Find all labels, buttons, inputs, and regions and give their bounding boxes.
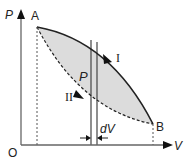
point-B-label: B [156,120,164,134]
curve-I-arrow-icon [103,54,112,64]
pv-diagram: P V O A B I II P dV [0,0,191,161]
x-axis-arrow-icon [163,141,173,149]
curve-II-arrow-icon [73,90,84,99]
strip-pressure-label: P [79,69,88,84]
curve-I-label: I [116,51,120,65]
y-axis-label: P [5,8,13,22]
x-axis-label: V [174,139,183,153]
curve-II-label: II [65,90,73,104]
origin-label: O [8,146,17,160]
y-axis-arrow-icon [17,9,25,19]
enclosed-area [37,27,153,124]
strip-width-label: dV [100,122,116,136]
point-A-label: A [31,9,39,23]
dv-left-arrow-icon [86,135,91,141]
